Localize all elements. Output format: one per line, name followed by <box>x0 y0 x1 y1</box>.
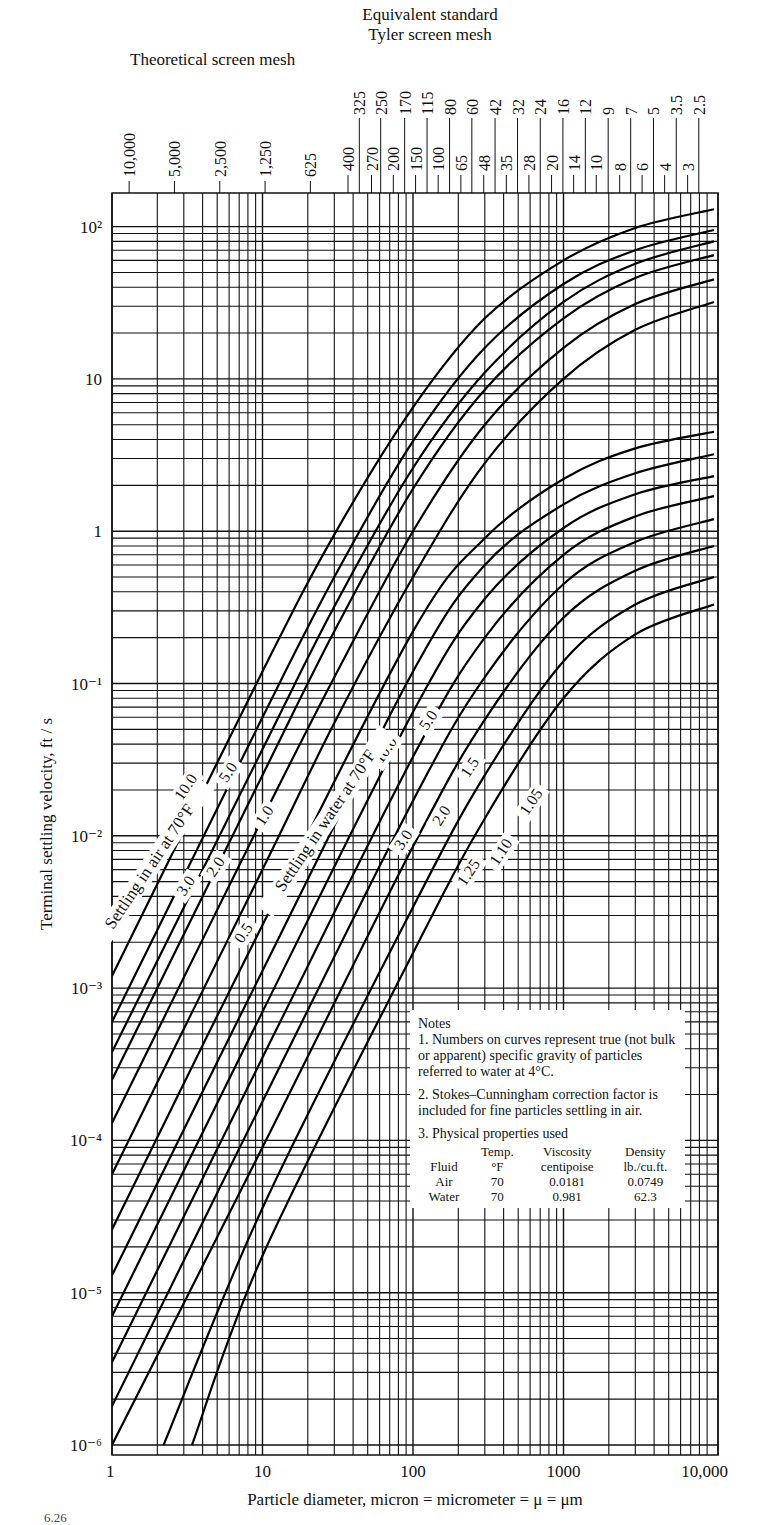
cell: Water <box>418 1189 470 1204</box>
note-2: 2. Stokes–Cunningham correction factor i… <box>418 1087 681 1119</box>
y-tick-label: 10 <box>85 370 102 389</box>
cell: 0.0749 <box>610 1174 681 1189</box>
physical-properties-table: Temp. Viscosity Density Fluid °F centipo… <box>418 1144 681 1204</box>
settling-velocity-chart: 10,0005,0002,5001,2506253252501701158060… <box>0 0 766 1525</box>
theoretical-mesh-label: 2,500 <box>212 141 229 177</box>
tyler-mesh-label: 42 <box>487 99 504 115</box>
curve-labels: 10.05.03.02.01.00.510.05.03.02.01.51.251… <box>85 703 550 956</box>
tyler-mesh-label: 3.5 <box>668 95 685 115</box>
tyler-mesh-label: 16 <box>555 99 572 115</box>
tyler-title-line2: Tyler screen mesh <box>300 25 560 45</box>
y-tick-label: 10⁻⁴ <box>70 1131 102 1150</box>
tyler-mesh-label: 6 <box>634 163 651 171</box>
theoretical-mesh-label: 5,000 <box>166 141 183 177</box>
y-tick-label: 10⁻⁵ <box>70 1284 102 1303</box>
tyler-mesh-label: 35 <box>498 155 515 171</box>
cell: 0.0181 <box>525 1174 610 1189</box>
tyler-mesh-label: 100 <box>430 147 447 171</box>
tyler-mesh-label: 170 <box>397 91 414 115</box>
notes-box: Notes 1. Numbers on curves represent tru… <box>410 1010 685 1208</box>
x-tick-label: 10,000 <box>681 1462 728 1481</box>
th: centipoise <box>525 1159 610 1174</box>
y-tick-label: 10⁻² <box>71 827 102 846</box>
x-tick-label: 1000 <box>547 1462 581 1481</box>
tyler-mesh-label: 12 <box>577 99 594 115</box>
tyler-mesh-label: 270 <box>364 147 381 171</box>
tyler-mesh-label: 10 <box>588 155 605 171</box>
cell: 70 <box>470 1174 525 1189</box>
tyler-mesh-label: 115 <box>419 92 436 115</box>
x-axis-label: Particle diameter, micron = micrometer =… <box>247 1490 583 1509</box>
tyler-mesh-label: 48 <box>476 155 493 171</box>
theoretical-mesh-label: 10,000 <box>121 133 138 177</box>
y-tick-label: 10⁻⁶ <box>70 1436 102 1455</box>
mesh-scale: 10,0005,0002,5001,2506253252501701158060… <box>121 91 708 193</box>
y-tick-label: 1 <box>94 522 103 541</box>
th: Density <box>610 1144 681 1159</box>
tyler-mesh-label: 7 <box>623 107 640 115</box>
cell: 62.3 <box>610 1189 681 1204</box>
tyler-mesh-label: 150 <box>408 147 425 171</box>
cell: Air <box>418 1174 470 1189</box>
tyler-mesh-label: 2.5 <box>691 95 708 115</box>
tyler-mesh-label: 325 <box>351 91 368 115</box>
y-axis-label: Terminal settling velocity, ft / s <box>37 718 56 930</box>
theoretical-mesh-title: Theoretical screen mesh <box>130 50 330 70</box>
tyler-mesh-label: 14 <box>566 155 583 171</box>
tyler-mesh-label: 20 <box>544 155 561 171</box>
y-tick-label: 10⁻³ <box>71 979 102 998</box>
th <box>418 1144 470 1159</box>
tyler-mesh-label: 28 <box>521 155 538 171</box>
th: °F <box>470 1159 525 1174</box>
x-tick-label: 10 <box>254 1462 271 1481</box>
table-row: Air 70 0.0181 0.0749 <box>418 1174 681 1189</box>
tyler-mesh-label: 65 <box>453 155 470 171</box>
cell: 0.981 <box>525 1189 610 1204</box>
theoretical-mesh-label: 625 <box>302 153 319 177</box>
th: Viscosity <box>525 1144 610 1159</box>
th: Temp. <box>470 1144 525 1159</box>
x-tick-label: 1 <box>106 1462 115 1481</box>
y-tick-label: 10² <box>80 218 102 237</box>
tyler-mesh-label: 80 <box>442 99 459 115</box>
note-3: 3. Physical properties used <box>418 1126 681 1142</box>
cell: 70 <box>470 1189 525 1204</box>
theoretical-mesh-label: 1,250 <box>257 141 274 177</box>
notes-heading: Notes <box>418 1016 681 1032</box>
tyler-mesh-label: 24 <box>532 99 549 115</box>
tyler-mesh-label: 8 <box>612 163 629 171</box>
tyler-mesh-label: 60 <box>464 99 481 115</box>
tyler-mesh-label: 3 <box>680 163 697 171</box>
th: Fluid <box>418 1159 470 1174</box>
tyler-mesh-label: 32 <box>510 99 527 115</box>
tyler-title-line1: Equivalent standard <box>300 5 560 25</box>
tyler-mesh-label: 5 <box>645 107 662 115</box>
tyler-mesh-label: 250 <box>373 91 390 115</box>
tyler-mesh-label: 9 <box>600 107 617 115</box>
th: lb./cu.ft. <box>610 1159 681 1174</box>
y-tick-label: 10⁻¹ <box>71 675 102 694</box>
figure-caption-fragment: 6.26 <box>44 1510 67 1525</box>
tyler-mesh-label: 400 <box>340 147 357 171</box>
tyler-mesh-label: 4 <box>657 163 674 171</box>
note-1: 1. Numbers on curves represent true (not… <box>418 1032 681 1080</box>
table-row: Water 70 0.981 62.3 <box>418 1189 681 1204</box>
x-tick-label: 100 <box>400 1462 426 1481</box>
tyler-mesh-label: 200 <box>385 147 402 171</box>
